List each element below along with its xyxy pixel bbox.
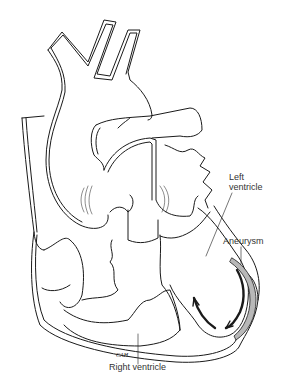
- artist-signature: CAH: [116, 352, 128, 358]
- heart-diagram: [0, 0, 282, 387]
- left-ventricle-label: Left ventricle: [229, 172, 263, 192]
- left-ventricle-label-line1: Left: [229, 172, 263, 182]
- aneurysm-label: Aneurysm: [223, 236, 264, 246]
- left-ventricle-label-line2: ventricle: [229, 182, 263, 192]
- aorta: [46, 20, 152, 228]
- vena-cava: [22, 116, 44, 250]
- right-ventricle-label: Right ventricle: [109, 362, 166, 372]
- pulmonary-artery: [91, 108, 202, 170]
- heart-chambers: [32, 138, 258, 362]
- leader-lines: [138, 193, 241, 364]
